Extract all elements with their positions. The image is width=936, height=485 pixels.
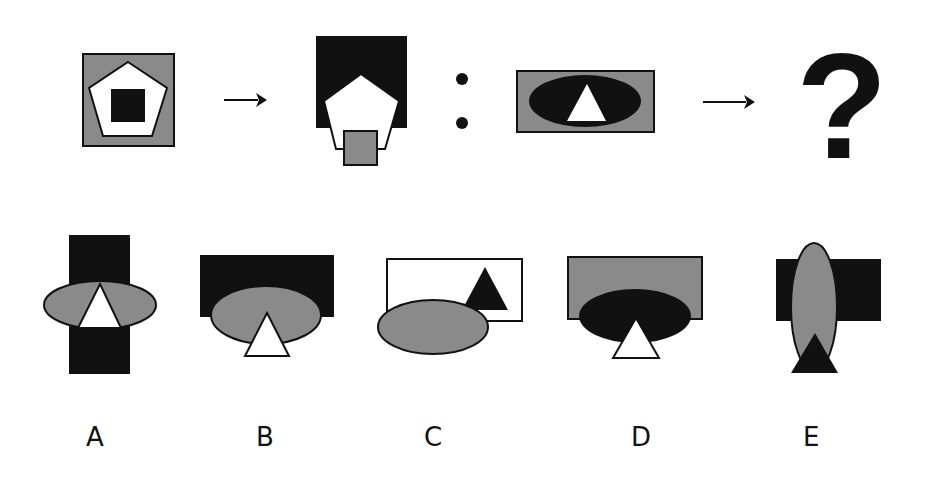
puzzle-canvas: ? A B C D E xyxy=(0,0,936,485)
option-a-label[interactable]: A xyxy=(86,422,104,452)
arrow-icon xyxy=(703,95,755,109)
example-source-figure xyxy=(83,54,174,146)
option-b-label[interactable]: B xyxy=(256,422,274,452)
option-c-figure[interactable] xyxy=(378,259,522,354)
option-b-figure[interactable] xyxy=(200,255,334,356)
question-mark: ? xyxy=(796,22,888,190)
example-result-figure xyxy=(316,36,407,165)
option-e-label[interactable]: E xyxy=(803,422,819,452)
option-a-figure[interactable] xyxy=(44,235,156,374)
gray-ellipse xyxy=(378,300,488,354)
arrow-icon xyxy=(224,93,267,107)
option-d-label[interactable]: D xyxy=(631,422,651,452)
option-e-figure[interactable] xyxy=(776,243,881,373)
front-gray-square xyxy=(344,131,377,165)
option-d-figure[interactable] xyxy=(568,257,702,358)
separator-colon-icon xyxy=(456,73,468,129)
inner-black-square xyxy=(111,89,145,122)
option-c-label[interactable]: C xyxy=(424,422,442,452)
query-figure xyxy=(517,71,654,132)
